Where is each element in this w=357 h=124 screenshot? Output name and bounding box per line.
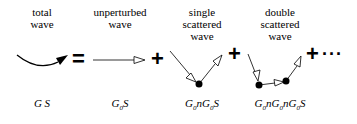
formula-double-scattered: G0nG0nG0S	[245, 97, 315, 112]
formula-part: S	[300, 97, 306, 109]
formula-single-scattered: G0nG0S	[172, 97, 232, 112]
plus-sign: +	[151, 48, 164, 70]
formula-total-wave: G S	[22, 97, 62, 109]
total-wave-arrow-icon	[17, 55, 68, 66]
formula-part: S	[123, 97, 129, 109]
formula-part: nG	[266, 97, 279, 109]
ellipsis: ···	[322, 43, 343, 65]
plus-sign: +	[228, 43, 241, 65]
equals-sign: =	[72, 48, 85, 70]
formula-part: G	[255, 97, 263, 109]
plus-sign: +	[306, 43, 319, 65]
unperturbed-wave-arrow-icon	[93, 57, 145, 64]
formula-part: S	[213, 97, 219, 109]
double-scattered-wave-icon	[248, 54, 301, 89]
formula-part: G	[34, 97, 42, 109]
formula-part: G	[185, 97, 193, 109]
single-scattered-wave-icon	[170, 51, 222, 88]
formula-unperturbed-wave: G0S	[95, 97, 145, 112]
formula-part: nG	[283, 97, 296, 109]
formula-part: S	[42, 97, 50, 109]
formula-part: nG	[197, 97, 210, 109]
